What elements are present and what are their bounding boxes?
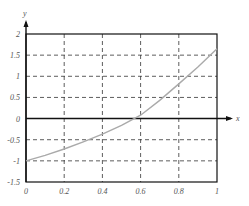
plot-border	[26, 34, 217, 182]
x-tick-label: 0	[24, 187, 28, 196]
y-tick-label: 0	[16, 115, 20, 124]
y-tick-label: -1	[13, 157, 20, 166]
y-tick-label: 2	[16, 30, 20, 39]
y-tick-label: 1.5	[10, 51, 20, 60]
x-axis-label: x	[235, 114, 240, 123]
x-tick-label: 0.6	[136, 187, 146, 196]
y-tick-label: -0.5	[7, 136, 20, 145]
data-curve	[26, 49, 217, 161]
x-tick-label: 0.8	[174, 187, 184, 196]
x-axis-arrow-icon	[226, 116, 233, 121]
line-chart: 00.20.40.60.81 21.510.50-0.5-1-1.5 x y	[0, 0, 249, 206]
axes	[24, 20, 234, 182]
x-tick-labels: 00.20.40.60.81	[24, 187, 219, 196]
x-tick-label: 1	[215, 187, 219, 196]
plot-frame	[26, 34, 217, 182]
grid-lines	[26, 34, 217, 182]
y-tick-label: -1.5	[7, 178, 20, 187]
y-axis-arrow-icon	[24, 20, 29, 27]
y-tick-label: 1	[16, 72, 20, 81]
y-tick-labels: 21.510.50-0.5-1-1.5	[7, 30, 20, 187]
series-line	[26, 49, 217, 161]
x-tick-label: 0.2	[59, 187, 69, 196]
y-axis-label: y	[22, 9, 27, 18]
y-tick-label: 0.5	[10, 93, 20, 102]
x-tick-label: 0.4	[97, 187, 107, 196]
